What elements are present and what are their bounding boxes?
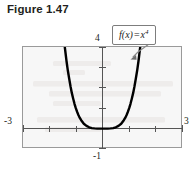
y-axis-min-label: -1 bbox=[93, 151, 101, 161]
x-axis-min-label: -3 bbox=[4, 116, 12, 126]
y-axis-max-label: 4 bbox=[95, 33, 100, 43]
graph-plot-area bbox=[22, 46, 182, 148]
callout-equals: = bbox=[133, 29, 141, 40]
x-axis-max-label: 3 bbox=[184, 116, 189, 126]
figure-title: Figure 1.47 bbox=[7, 3, 69, 15]
axis-lines bbox=[23, 47, 183, 149]
figure-container: Figure 1.47 bbox=[0, 0, 193, 173]
function-label-callout: f(x)=x4 bbox=[112, 25, 156, 45]
callout-exponent: 4 bbox=[145, 28, 149, 36]
graph-canvas bbox=[23, 47, 183, 149]
